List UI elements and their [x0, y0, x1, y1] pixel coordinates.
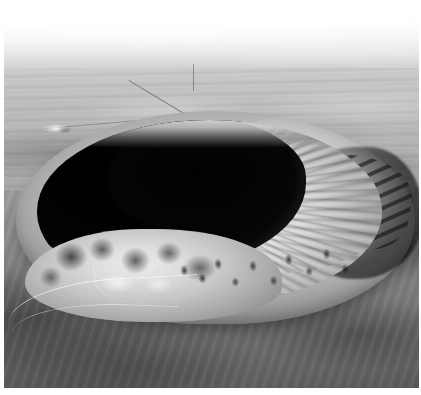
aerial-crater-photograph: [4, 0, 419, 388]
highway-spur: [193, 64, 194, 91]
horizon-glare: [4, 0, 419, 74]
far-rim-crest: [58, 120, 334, 147]
photo-frame: [0, 0, 421, 395]
